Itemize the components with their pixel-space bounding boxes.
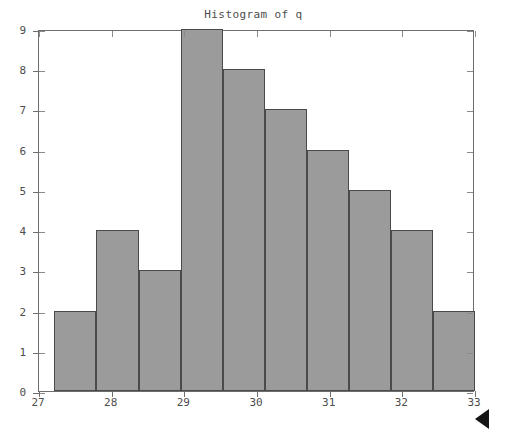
x-tick-mark-top <box>257 31 258 37</box>
figure-canvas: Histogram of q 0123456789 27282930313233 <box>0 0 507 436</box>
x-tick-label: 28 <box>91 396 131 409</box>
x-tick-mark-top <box>402 31 403 37</box>
y-tick-mark-right <box>467 272 473 273</box>
x-tick-label: 30 <box>236 396 276 409</box>
y-tick-mark-right <box>467 232 473 233</box>
y-tick-mark-inner <box>39 272 45 273</box>
histogram-bar <box>181 29 223 391</box>
left-pointing-triangle-cursor-icon <box>475 409 489 429</box>
y-tick-mark-inner <box>39 232 45 233</box>
y-tick-label: 6 <box>0 144 26 157</box>
histogram-bar <box>433 311 475 391</box>
y-tick-mark-right <box>467 393 473 394</box>
x-tick-label: 32 <box>381 396 421 409</box>
histogram-bar <box>265 109 307 391</box>
y-tick-label: 7 <box>0 104 26 117</box>
y-tick-mark-right <box>467 313 473 314</box>
y-tick-label: 5 <box>0 184 26 197</box>
y-tick-mark-inner <box>39 152 45 153</box>
x-tick-mark <box>184 391 185 397</box>
x-tick-mark <box>330 391 331 397</box>
y-tick-mark-inner <box>39 353 45 354</box>
x-tick-mark <box>112 391 113 397</box>
histogram-bar <box>391 230 432 391</box>
y-tick-mark-right <box>467 353 473 354</box>
y-tick-label: 9 <box>0 24 26 37</box>
y-tick-mark-right <box>467 71 473 72</box>
x-tick-mark <box>475 391 476 397</box>
histogram-bar <box>349 190 391 391</box>
histogram-bar <box>96 230 138 391</box>
plot-area[interactable] <box>38 30 474 392</box>
x-tick-mark-top <box>475 31 476 37</box>
y-tick-label: 1 <box>0 345 26 358</box>
histogram-bars <box>39 31 473 391</box>
y-tick-mark-inner <box>39 111 45 112</box>
histogram-bar <box>307 150 349 391</box>
y-tick-label: 3 <box>0 265 26 278</box>
x-tick-mark <box>402 391 403 397</box>
x-tick-mark <box>39 391 40 397</box>
histogram-bar <box>139 270 181 391</box>
histogram-bar <box>223 69 265 391</box>
y-tick-label: 2 <box>0 305 26 318</box>
histogram-bar <box>54 311 96 391</box>
y-tick-mark-right <box>467 192 473 193</box>
x-tick-mark-top <box>330 31 331 37</box>
x-tick-mark-top <box>39 31 40 37</box>
x-tick-mark-top <box>184 31 185 37</box>
y-tick-label: 8 <box>0 64 26 77</box>
page-title: Histogram of q <box>0 8 507 21</box>
x-tick-mark <box>257 391 258 397</box>
x-tick-label: 31 <box>309 396 349 409</box>
x-tick-mark-top <box>112 31 113 37</box>
x-tick-label: 27 <box>18 396 58 409</box>
x-tick-label: 29 <box>163 396 203 409</box>
y-tick-mark-right <box>467 31 473 32</box>
y-tick-mark-inner <box>39 192 45 193</box>
x-tick-label: 33 <box>454 396 494 409</box>
y-tick-mark-inner <box>39 71 45 72</box>
y-tick-mark-right <box>467 111 473 112</box>
y-tick-mark-inner <box>39 313 45 314</box>
y-tick-mark-right <box>467 152 473 153</box>
y-tick-label: 4 <box>0 225 26 238</box>
